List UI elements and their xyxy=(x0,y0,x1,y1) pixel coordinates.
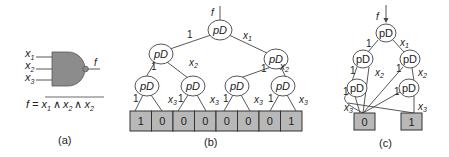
inversion-bubble-icon xyxy=(83,66,89,72)
diagram-canvas: x1 x2 x3 f f = x1∧x2∧x2 (a) f pD xyxy=(0,0,449,157)
terminal-value: 1 xyxy=(408,116,414,128)
edge-label: x3 xyxy=(417,101,427,113)
caption-c: (c) xyxy=(379,137,392,149)
edge-label: 1 xyxy=(261,63,267,74)
input-label-x3: x3 xyxy=(24,71,35,85)
cell-value: 0 xyxy=(159,115,165,127)
edge-label: 1 xyxy=(133,93,139,104)
pd-node: pD xyxy=(376,24,396,42)
panel-c: f pD pD pD xyxy=(343,5,427,149)
equation: f = x1∧x2∧x2 xyxy=(26,98,94,112)
edge-label: x3 xyxy=(253,94,263,106)
arrow-head-icon xyxy=(384,18,389,23)
edge-label: x3 xyxy=(298,94,308,106)
edge-label: 1 xyxy=(366,38,372,49)
pd-node: pD xyxy=(347,79,367,97)
cell-value: 0 xyxy=(245,115,251,127)
edge-label: 1 xyxy=(394,86,400,97)
cell-value: 0 xyxy=(267,115,273,127)
caption-b: (b) xyxy=(204,136,217,148)
edge-label: x1 xyxy=(399,37,409,49)
edge xyxy=(151,95,162,111)
edge xyxy=(241,95,250,111)
edge-label: 1 xyxy=(187,29,193,40)
edge-label: x3 xyxy=(209,94,219,106)
edge xyxy=(197,95,206,111)
edge-label: x2 xyxy=(374,67,384,79)
pd-node: pD xyxy=(400,50,420,68)
svg-text:pD: pD xyxy=(185,80,200,92)
pd-node: pD xyxy=(208,20,232,40)
root-label-f: f xyxy=(376,11,380,22)
edge-label: 1 xyxy=(343,86,349,97)
edge-label: 1 xyxy=(396,63,402,74)
cell-value: 1 xyxy=(138,115,144,127)
edge xyxy=(287,95,296,111)
cell-value: 1 xyxy=(288,115,294,127)
terminal-value: 0 xyxy=(361,116,367,128)
caption-a: (a) xyxy=(58,134,71,146)
svg-text:pD: pD xyxy=(275,80,290,92)
cell-value: 0 xyxy=(202,115,208,127)
cell-value: 0 xyxy=(181,115,187,127)
pd-node: pD xyxy=(135,76,159,96)
edge-label: 1 xyxy=(223,93,229,104)
edge-label: 1 xyxy=(268,93,274,104)
svg-text:pD: pD xyxy=(403,53,417,65)
pd-node: pD xyxy=(399,79,419,97)
root-label-f: f xyxy=(211,7,215,18)
svg-text:pD: pD xyxy=(212,24,227,36)
edge-label: x3 xyxy=(167,94,177,106)
svg-text:pD: pD xyxy=(356,53,370,65)
svg-text:pD: pD xyxy=(379,27,393,39)
edge-label: x2 xyxy=(417,67,427,79)
svg-text:pD: pD xyxy=(153,48,168,60)
truth-table-cells: 1 0 0 0 0 0 0 1 xyxy=(130,111,302,131)
svg-text:pD: pD xyxy=(229,80,244,92)
edge-label: x1 xyxy=(242,30,252,42)
edge xyxy=(167,62,188,78)
edge-label: 1 xyxy=(350,65,356,76)
pd-node: pD xyxy=(181,76,205,96)
output-label-f: f xyxy=(94,57,98,68)
pd-node: pD xyxy=(225,76,249,96)
edge-label: 1 xyxy=(151,61,157,72)
pd-node: pD xyxy=(271,76,295,96)
svg-text:pD: pD xyxy=(139,80,154,92)
pd-node: pD xyxy=(353,50,373,68)
svg-text:pD: pD xyxy=(350,82,364,94)
cell-value: 0 xyxy=(224,115,230,127)
edge-label: 1 xyxy=(178,93,184,104)
nand-gate-icon xyxy=(52,52,85,86)
panel-b: f pD pD pD pD xyxy=(130,6,308,148)
panel-a: x1 x2 x3 f f = x1∧x2∧x2 (a) xyxy=(24,47,104,146)
svg-text:pD: pD xyxy=(402,82,416,94)
edge-label: x2 xyxy=(188,57,198,69)
